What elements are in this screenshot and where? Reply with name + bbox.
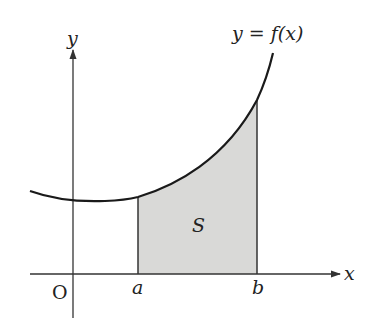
lower-bound-label: a	[132, 276, 143, 298]
shaded-region-s	[138, 100, 257, 274]
region-label-s: S	[192, 214, 205, 236]
y-axis-label: y	[66, 27, 78, 49]
area-diagram: y = f(x) y x O a b S	[0, 0, 380, 336]
upper-bound-label: b	[252, 276, 264, 298]
x-axis-label: x	[344, 262, 355, 284]
curve-label: y = f(x)	[231, 22, 303, 44]
origin-label: O	[52, 281, 68, 303]
